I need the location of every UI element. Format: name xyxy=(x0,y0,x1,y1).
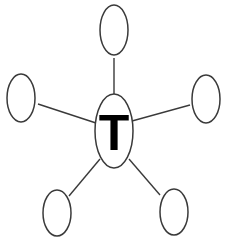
node-top xyxy=(100,5,128,55)
edge-center-bottom-right xyxy=(129,159,160,195)
node-right xyxy=(192,75,220,123)
hub-spoke-diagram: T xyxy=(0,0,225,246)
node-bottom-left xyxy=(43,190,71,236)
edge-center-bottom-left xyxy=(69,159,100,196)
center-label: T xyxy=(99,105,130,161)
node-left xyxy=(7,74,35,122)
edge-center-right xyxy=(132,105,190,121)
node-bottom-right xyxy=(160,189,188,235)
edge-center-left xyxy=(38,104,96,123)
